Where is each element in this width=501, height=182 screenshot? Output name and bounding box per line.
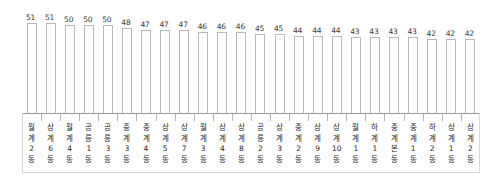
bar (160, 30, 170, 114)
x-axis-label-char: 하 (429, 123, 436, 134)
bar-group: 45 (251, 6, 270, 114)
x-axis-label: 하계2동 (423, 121, 442, 172)
bar-chart: 5151505050484747474646464545444444434343… (0, 0, 501, 182)
x-axis-label: 하계1동 (365, 121, 384, 172)
x-axis-label-char: 계 (429, 134, 436, 145)
bar-group: 42 (423, 6, 442, 114)
bar-group: 47 (175, 6, 194, 114)
x-axis-label-char: 2 (296, 144, 301, 155)
bar (122, 28, 132, 114)
x-axis-label-char: 9 (315, 144, 320, 155)
bar-group: 51 (41, 6, 60, 114)
x-axis-label-char: 계 (314, 134, 321, 145)
bar (332, 36, 342, 114)
x-axis-label: 월계4동 (60, 121, 79, 172)
bar-value-label: 44 (331, 26, 340, 35)
x-axis-label: 상계4동 (213, 121, 232, 172)
x-axis-label-char: 1 (373, 144, 378, 155)
bar-value-label: 43 (369, 27, 378, 36)
bar-value-label: 44 (293, 26, 302, 35)
x-axis-label-char: 릉 (104, 134, 111, 145)
x-axis-label-char: 하 (371, 123, 378, 134)
x-axis-label-char: 계 (181, 134, 188, 145)
bar (46, 23, 56, 114)
x-axis-label-char: 동 (47, 155, 54, 166)
x-axis-label-char: 상 (219, 123, 226, 134)
bar-value-label: 47 (140, 20, 149, 29)
x-axis-label-band: 월계2동상계6동월계4동공릉1동공릉3동중계3동중계4동상계5동상계7동월계3동… (22, 121, 480, 173)
bar-group: 44 (327, 6, 346, 114)
x-axis-label-char: 1 (449, 144, 454, 155)
x-axis-label-char: 동 (143, 155, 150, 166)
x-axis-label-char: 동 (352, 155, 359, 166)
x-axis-label-char: 계 (352, 134, 359, 145)
bar-value-label: 42 (446, 29, 455, 38)
x-axis-label: 중계3동 (117, 121, 136, 172)
x-axis-label-char: 동 (162, 155, 169, 166)
bar (465, 39, 475, 114)
x-axis-tick (308, 114, 327, 121)
bar-group: 43 (346, 6, 365, 114)
x-axis-label-char: 8 (239, 144, 244, 155)
x-axis-label-char: 동 (467, 155, 474, 166)
bar-value-label: 51 (26, 13, 35, 22)
x-axis-tick (251, 114, 270, 121)
x-axis-label: 상계7동 (175, 121, 194, 172)
x-axis-tick (289, 114, 308, 121)
x-axis-label-char: 계 (200, 134, 207, 145)
bar (84, 25, 94, 114)
x-axis-label-char: 월 (352, 123, 359, 134)
x-axis-label-char: 동 (200, 155, 207, 166)
x-axis-tick (461, 114, 480, 121)
bar-group: 50 (98, 6, 117, 114)
x-axis-label-char: 3 (201, 144, 206, 155)
x-axis-label-char: 5 (163, 144, 168, 155)
x-axis-label-char: 3 (125, 144, 130, 155)
bar-value-label: 50 (83, 15, 92, 24)
x-axis-tick (213, 114, 232, 121)
x-axis-label: 중계본동 (384, 121, 403, 172)
bar-group: 47 (156, 6, 175, 114)
bar-value-label: 50 (102, 15, 111, 24)
x-axis-label-char: 계 (276, 134, 283, 145)
x-axis-label-char: 동 (410, 155, 417, 166)
x-axis-label-char: 동 (85, 155, 92, 166)
x-axis-label-char: 2 (258, 144, 263, 155)
x-axis-label-char: 동 (333, 155, 340, 166)
bar-value-label: 44 (312, 26, 321, 35)
x-axis-label-char: 월 (66, 123, 73, 134)
x-axis-tick (232, 114, 251, 121)
x-axis-label: 상계2동 (461, 121, 480, 172)
bar-group: 44 (308, 6, 327, 114)
x-axis-label-char: 공 (104, 123, 111, 134)
x-axis-label-char: 상 (333, 123, 340, 134)
bar (446, 39, 456, 114)
x-axis-label: 상계6동 (41, 121, 60, 172)
x-axis-label-char: 공 (257, 123, 264, 134)
bar (27, 23, 37, 114)
x-axis-tick (98, 114, 117, 121)
x-axis-label-char: 2 (29, 144, 34, 155)
x-axis-tick (365, 114, 384, 121)
bar-value-label: 46 (217, 22, 226, 31)
x-axis-tick (442, 114, 461, 121)
x-axis-label-char: 동 (181, 155, 188, 166)
x-axis-label-char: 중 (410, 123, 417, 134)
x-axis-label-char: 계 (448, 134, 455, 145)
x-axis-tick (117, 114, 136, 121)
x-axis-label-char: 2 (468, 144, 473, 155)
bar (427, 39, 437, 114)
x-axis-label-char: 7 (182, 144, 187, 155)
bar-group: 42 (442, 6, 461, 114)
x-axis-label-char: 동 (238, 155, 245, 166)
x-axis-label: 중계1동 (404, 121, 423, 172)
bar (198, 32, 208, 114)
x-axis-label-char: 계 (123, 134, 130, 145)
x-axis-label-char: 계 (66, 134, 73, 145)
bar-group: 43 (404, 6, 423, 114)
bar (408, 37, 418, 114)
bar-group: 51 (22, 6, 41, 114)
x-axis-label: 상계3동 (270, 121, 289, 172)
bar-value-label: 51 (45, 13, 54, 22)
x-axis-label: 상계8동 (232, 121, 251, 172)
